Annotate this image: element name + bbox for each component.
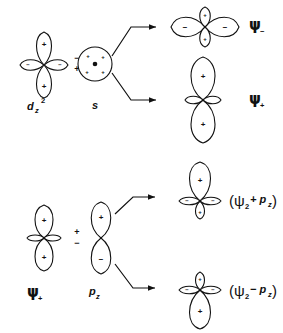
hybrid-down-sign-top: +	[198, 276, 202, 282]
arrow-row2-lower-head	[148, 285, 155, 291]
hybrid-up-label-open: (ψ	[229, 192, 245, 209]
s-orbital-nucleus	[93, 62, 98, 67]
psi-minus-label-sub: −	[260, 27, 265, 36]
hybrid-up-lobe-left	[179, 197, 200, 205]
psi-plus-orbital-reactant: + +	[27, 205, 61, 271]
psi-minus-orbital: + + − −	[171, 7, 239, 47]
hybrid-up-orbital: + + − −	[179, 162, 221, 219]
psi-minus-label: ψ −	[249, 16, 265, 36]
pz-sign-bottom: −	[99, 255, 104, 264]
psi-plus-label-right: ψ +	[249, 90, 265, 110]
psi-minus-sign-bottom: +	[203, 36, 207, 42]
dz2-sign-top: +	[42, 40, 47, 49]
dz2-label: d z 2	[27, 96, 45, 115]
dz2-sign-bottom: +	[42, 82, 47, 91]
hybrid-up-label-mid: + p	[250, 193, 266, 205]
arrow-row1-lower	[112, 73, 156, 103]
psi-plus-top-sign-lower: +	[201, 120, 206, 129]
hybrid-up-label: (ψ 2 + p z )	[229, 192, 277, 211]
s-sign-1: +	[86, 53, 90, 59]
psi-plus-reactant-label-sub: +	[38, 294, 43, 303]
psi-plus-top-sign-upper: +	[201, 72, 206, 81]
psi-plus-top-lobe-left	[185, 96, 203, 104]
hybrid-up-sign-right: −	[211, 198, 215, 204]
hybrid-down-label: (ψ 2 − p z )	[229, 282, 277, 301]
arrow-row2-upper	[115, 194, 155, 214]
hybrid-up-label-sub: 2	[245, 202, 249, 211]
operator-row2-bottom: −	[74, 238, 79, 248]
hybrid-down-lobe-left	[179, 286, 200, 294]
operator-row2: + −	[74, 227, 79, 248]
arrow-row1-lower-head	[149, 97, 156, 103]
dz2-lobe-top	[37, 32, 52, 65]
dz2-label-text: d	[27, 100, 34, 112]
psi-plus-reactant-label: ψ +	[27, 283, 43, 303]
psi-plus-top-lobe-right	[203, 96, 221, 104]
arrow-row2-upper-head	[148, 194, 155, 200]
hybrid-up-sign-top: +	[198, 176, 203, 185]
dz2-orbital: + + − −	[20, 32, 68, 98]
psi-minus-sign-top: +	[203, 12, 207, 18]
hybrid-down-label-close: )	[272, 282, 277, 299]
arrow-row1-upper-head	[149, 24, 156, 30]
hybrid-down-sign-right: −	[211, 287, 215, 293]
hybrid-down-label-sub: 2	[245, 292, 249, 301]
hybrid-up-sign-left: −	[185, 198, 189, 204]
psi-plus-orbital-top: + +	[185, 57, 221, 143]
hybrid-down-label-mid: − p	[250, 283, 266, 295]
pz-label-sub: z	[95, 292, 100, 301]
psi-minus-sign-right: −	[223, 23, 228, 32]
arrow-row1-upper	[112, 24, 156, 56]
s-sign-4: +	[101, 69, 105, 75]
s-sign-3: +	[85, 69, 89, 75]
psi-plus-r-lobe-left	[27, 235, 44, 241]
hybrid-down-sign-left: −	[185, 287, 189, 293]
arrow-row2-lower	[115, 264, 155, 291]
dz2-sign-left: −	[26, 62, 30, 68]
psi-plus-r-sign-lower: +	[42, 253, 47, 262]
dz2-lobe-right	[44, 60, 68, 71]
pz-orbital: + −	[91, 202, 111, 274]
dz2-sign-right: −	[58, 62, 62, 68]
orbital-hybridization-figure: + + − − d z 2 − + + + + + s + + −	[0, 0, 283, 333]
psi-plus-r-lobe-right	[44, 235, 61, 241]
operator-row2-top: +	[74, 227, 79, 237]
hybrid-down-label-open: (ψ	[229, 282, 245, 299]
psi-minus-sign-left: −	[183, 23, 188, 32]
psi-plus-label-sub: +	[260, 101, 265, 110]
dz2-label-sup: 2	[41, 96, 45, 105]
hybrid-down-sign-bottom: +	[198, 307, 203, 316]
hybrid-up-sign-bottom: +	[198, 209, 202, 215]
s-sign-2: +	[101, 54, 105, 60]
s-label: s	[92, 99, 98, 111]
s-orbital: + + + +	[78, 47, 112, 81]
psi-plus-r-sign-upper: +	[42, 216, 47, 225]
dz2-lobe-left	[20, 60, 44, 71]
pz-sign-top: +	[99, 213, 104, 222]
hybrid-down-orbital: + + − −	[179, 272, 221, 329]
pz-label: p z	[88, 285, 100, 301]
hybrid-up-label-close: )	[272, 192, 277, 209]
pz-label-text: p	[88, 285, 96, 297]
dz2-label-sub: z	[34, 106, 39, 115]
